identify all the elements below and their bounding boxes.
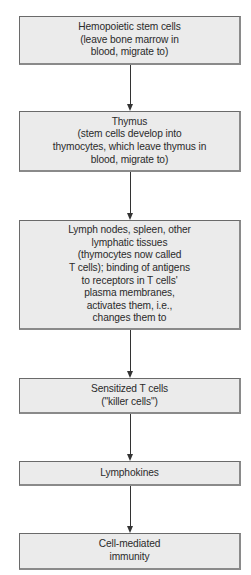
arrowhead-down-icon [127, 454, 133, 461]
arrowhead-down-icon [127, 526, 133, 533]
node-cell-mediated-immunity: Cell-mediated immunity [19, 533, 241, 570]
node-label: Cell-mediated immunity [99, 538, 161, 563]
connector-2-3 [130, 172, 131, 213]
node-label: Sensitized T cells ("killer cells") [91, 383, 168, 408]
node-label: Hemopoietic stem cells (leave bone marro… [78, 21, 181, 59]
node-lymph-nodes: Lymph nodes, spleen, other lymphatic tis… [19, 220, 241, 330]
node-label: Lymphokines [100, 467, 159, 480]
arrowhead-down-icon [127, 371, 133, 378]
connector-3-4 [130, 330, 131, 371]
connector-1-2 [130, 65, 131, 105]
node-label: Lymph nodes, spleen, other lymphatic tis… [68, 224, 191, 325]
node-thymus: Thymus (stem cells develop into thymocyt… [19, 111, 241, 172]
node-hemopoietic-stem-cells: Hemopoietic stem cells (leave bone marro… [19, 16, 241, 65]
node-label: Thymus (stem cells develop into thymocyt… [53, 116, 207, 166]
arrowhead-down-icon [127, 104, 133, 111]
connector-5-6 [130, 486, 131, 526]
connector-4-5 [130, 414, 131, 454]
node-sensitized-t-cells: Sensitized T cells ("killer cells") [19, 378, 241, 414]
node-lymphokines: Lymphokines [19, 461, 241, 486]
arrowhead-down-icon [127, 213, 133, 220]
